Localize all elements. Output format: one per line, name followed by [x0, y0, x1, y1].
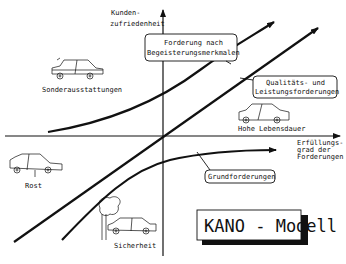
- svg-text:Leistungsforderungen: Leistungsforderungen: [255, 88, 339, 96]
- svg-text:Forderungen: Forderungen: [297, 153, 343, 161]
- performance-label: Qualitäts- und Leistungsforderungen: [240, 76, 339, 98]
- svg-text:Begeisterungsmerkmalen: Begeisterungsmerkmalen: [147, 49, 240, 57]
- example-longevity-label: Hohe Lebensdauer: [238, 125, 305, 133]
- kano-title-box: KANO - Modell: [197, 210, 337, 245]
- basic-label: Grundforderungen: [197, 152, 275, 183]
- car-longevity-icon: [239, 104, 289, 123]
- car-crash-icon: [108, 218, 156, 234]
- kano-model-diagram: Kunden- zufriedenheit Erfüllungs- grad d…: [0, 0, 346, 264]
- example-safety-label: Sicherheit: [114, 242, 156, 250]
- x-axis-label: Erfüllungs- grad der Forderungen: [297, 139, 343, 161]
- car-with-extras-icon: [52, 58, 103, 79]
- excitement-label: Forderung nach Begeisterungsmerkmalen: [145, 34, 240, 64]
- svg-text:Kunden-: Kunden-: [111, 9, 141, 17]
- car-rust-icon: [10, 154, 62, 177]
- svg-text:Qualitäts- und: Qualitäts- und: [266, 79, 325, 87]
- svg-text:Forderung nach: Forderung nach: [164, 39, 223, 47]
- example-extras-label: Sonderausstattungen: [42, 86, 122, 94]
- y-axis-label: Kunden- zufriedenheit: [110, 9, 165, 28]
- svg-text:Grundforderungen: Grundforderungen: [208, 173, 275, 181]
- example-rust-label: Rost: [25, 182, 42, 190]
- kano-title: KANO - Modell: [204, 216, 337, 236]
- svg-text:zufriedenheit: zufriedenheit: [110, 20, 165, 28]
